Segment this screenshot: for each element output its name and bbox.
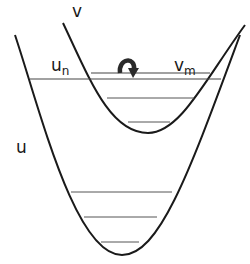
label-v-m: vm bbox=[174, 57, 196, 77]
label-u-n: un bbox=[51, 57, 69, 77]
label-u: u bbox=[16, 139, 27, 156]
curve-v bbox=[63, 23, 245, 133]
curved-arrow-icon bbox=[120, 61, 139, 78]
potential-energy-diagram bbox=[0, 0, 250, 264]
label-v: v bbox=[72, 3, 82, 20]
curve-u bbox=[15, 35, 240, 255]
